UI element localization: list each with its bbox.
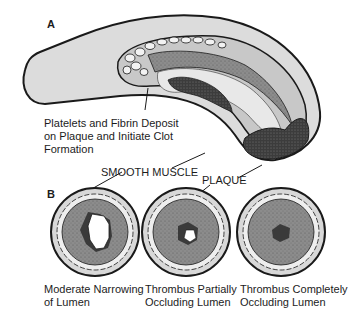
cross-section-3-complete-occlusion (237, 188, 325, 276)
platelets-annotation-line-3: Formation (44, 143, 94, 156)
plaque-label: PLAQUE (202, 174, 247, 187)
caption-1-line-2: of Lumen (44, 296, 90, 309)
caption-2-line-2: Occluding Lumen (145, 296, 231, 309)
cross-section-2-partial-thrombus (142, 188, 230, 276)
caption-3-line-2: Occluding Lumen (240, 296, 326, 309)
platelets-annotation-line-2: on Plaque and Initiate Clot (44, 130, 173, 143)
smooth-muscle-label: SMOOTH MUSCLE (101, 166, 198, 179)
artery-illustration (0, 0, 358, 316)
atherosclerosis-figure: A Platelets and Fibrin Deposit on Plaque… (0, 0, 358, 316)
caption-1-line-1: Moderate Narrowing (44, 283, 144, 296)
panel-a-label: A (47, 18, 55, 30)
panel-b-label: B (47, 188, 55, 200)
caption-3-line-1: Thrombus Completely (240, 283, 348, 296)
platelets-annotation-line-1: Platelets and Fibrin Deposit (44, 117, 179, 130)
cross-section-1-moderate-narrowing (51, 188, 139, 276)
caption-2-line-1: Thrombus Partially (145, 283, 237, 296)
